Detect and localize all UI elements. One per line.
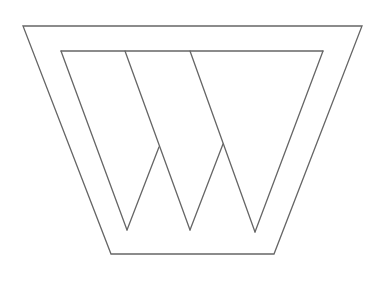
inner-line-2	[127, 147, 159, 230]
inner-line-4	[190, 144, 223, 230]
outer-trapezoid	[23, 26, 362, 254]
inner-line-1	[61, 51, 127, 230]
inner-line-3	[125, 51, 190, 230]
w-trapezoid-diagram	[0, 0, 390, 284]
inner-line-6	[255, 51, 323, 232]
